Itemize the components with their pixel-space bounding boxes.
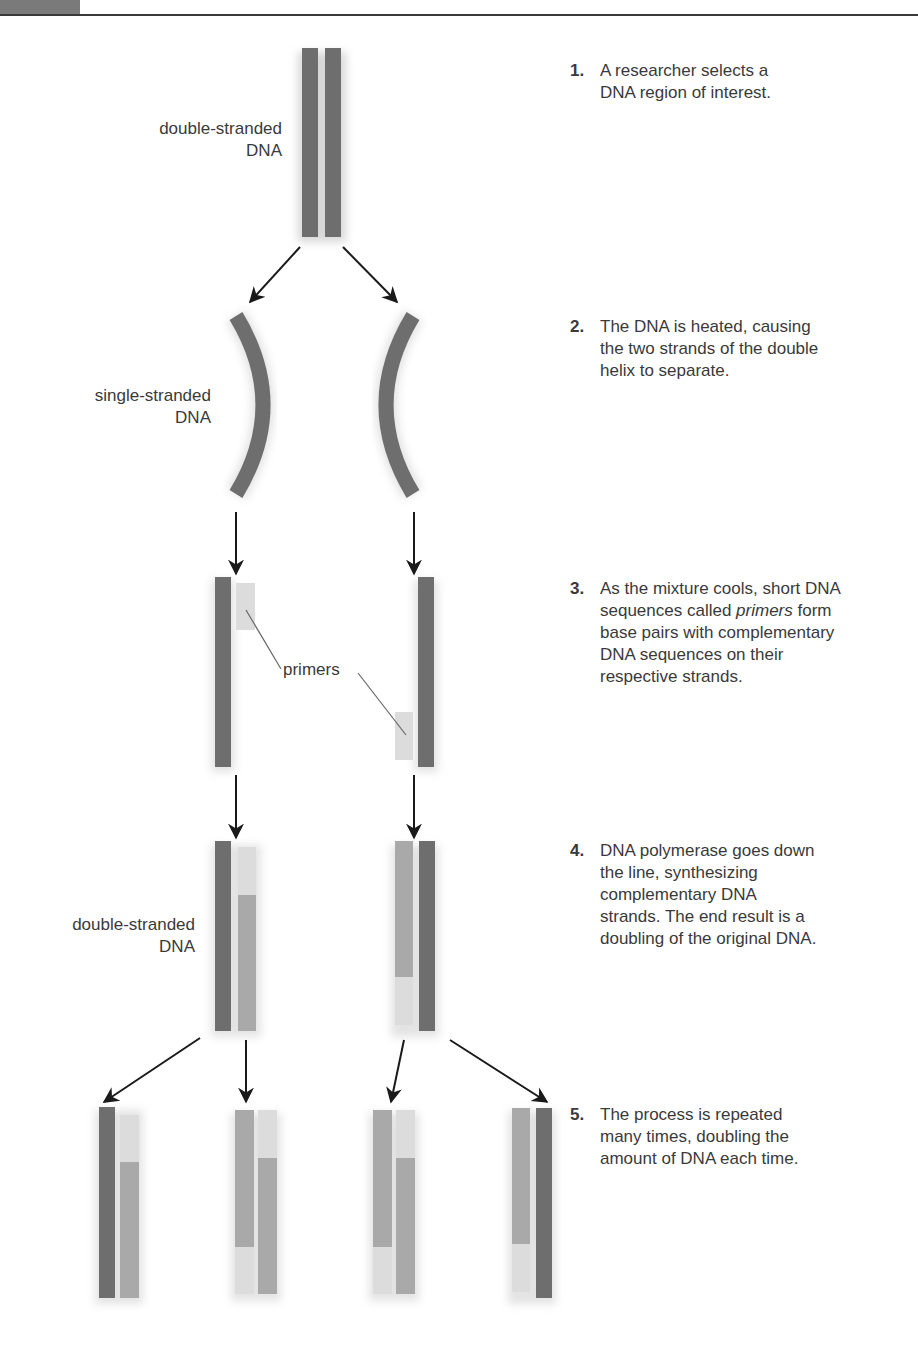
step-text: DNA polymerase goes down the line, synth… xyxy=(600,840,910,950)
arrow-icon xyxy=(104,1038,200,1102)
step-line: DNA polymerase goes down xyxy=(600,840,910,862)
label-double-stranded-dna-top: double-stranded DNA xyxy=(100,118,282,162)
primer xyxy=(512,1244,530,1292)
step-line: The process is repeated xyxy=(600,1104,910,1126)
step-text-fragment: form xyxy=(793,601,832,620)
step-line: base pairs with complementary xyxy=(600,622,910,644)
primer xyxy=(396,1110,415,1158)
step-number: 3. xyxy=(570,578,584,600)
primer xyxy=(395,712,413,760)
label-line: double-stranded xyxy=(20,914,195,936)
arrow-icon xyxy=(250,247,300,302)
step-text: As the mixture cools, short DNA sequence… xyxy=(600,578,910,688)
strand-original xyxy=(536,1108,552,1298)
step-line: DNA sequences on their xyxy=(600,644,910,666)
step-line: respective strands. xyxy=(600,666,910,688)
step-line: many times, doubling the xyxy=(600,1126,910,1148)
step-line: complementary DNA xyxy=(600,884,910,906)
step-line: The DNA is heated, causing xyxy=(600,316,910,338)
arrow-icon xyxy=(391,1040,404,1102)
step-text: A researcher selects a DNA region of int… xyxy=(600,60,910,104)
arrow-icon xyxy=(343,247,397,302)
strand-original xyxy=(215,577,231,767)
strand-original xyxy=(325,48,341,237)
step-line: amount of DNA each time. xyxy=(600,1148,910,1170)
step-number: 4. xyxy=(570,840,584,862)
step4-extended xyxy=(211,841,439,1037)
step2-single-strands xyxy=(236,316,413,494)
label-primers: primers xyxy=(283,660,340,680)
step-number: 2. xyxy=(570,316,584,338)
step-line: strands. The end result is a xyxy=(600,906,910,928)
primer xyxy=(120,1115,139,1162)
arrow-icon xyxy=(450,1040,547,1102)
step-number: 1. xyxy=(570,60,584,82)
step5-copies xyxy=(95,1107,556,1304)
step-line: sequences called primers form xyxy=(600,600,910,622)
step1-dna xyxy=(298,48,346,242)
label-line: single-stranded xyxy=(40,385,211,407)
primer xyxy=(395,977,413,1025)
primer xyxy=(236,583,255,630)
step-line: helix to separate. xyxy=(600,360,910,382)
step-line: the two strands of the double xyxy=(600,338,910,360)
strand-original xyxy=(99,1107,115,1298)
strand-original xyxy=(418,577,434,767)
step-number: 5. xyxy=(570,1104,584,1126)
step-line: the line, synthesizing xyxy=(600,862,910,884)
primer-leader-line xyxy=(246,610,281,669)
label-line: DNA xyxy=(40,407,211,429)
emphasis-primers: primers xyxy=(736,601,793,620)
strand-original xyxy=(215,841,231,1031)
label-line: double-stranded xyxy=(100,118,282,140)
label-line: DNA xyxy=(100,140,282,162)
primer-leader-line xyxy=(358,673,406,735)
step-line: DNA region of interest. xyxy=(600,82,910,104)
primer xyxy=(238,847,256,895)
primer xyxy=(373,1247,392,1294)
step-text: The process is repeated many times, doub… xyxy=(600,1104,910,1170)
label-double-stranded-dna-bottom: double-stranded DNA xyxy=(20,914,195,958)
primer xyxy=(258,1110,277,1158)
label-line: DNA xyxy=(20,936,195,958)
step-line: A researcher selects a xyxy=(600,60,910,82)
step-text-fragment: sequences called xyxy=(600,601,736,620)
strand-original xyxy=(302,48,318,237)
strand-original xyxy=(419,841,435,1031)
primer xyxy=(235,1247,254,1294)
step-text: The DNA is heated, causing the two stran… xyxy=(600,316,910,382)
step-line: doubling of the original DNA. xyxy=(600,928,910,950)
label-single-stranded-dna: single-stranded DNA xyxy=(40,385,211,429)
step-line: As the mixture cools, short DNA xyxy=(600,578,910,600)
